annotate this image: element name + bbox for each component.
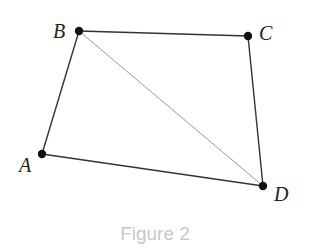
figure-caption: Figure 2	[120, 223, 190, 244]
label-b: B	[53, 20, 65, 42]
quadrilateral-diagram: B C A D Figure 2	[0, 0, 311, 250]
label-d: D	[273, 183, 289, 205]
edge-ab	[42, 31, 79, 154]
label-a: A	[17, 154, 32, 176]
point-d	[259, 182, 267, 190]
point-c	[244, 32, 252, 40]
edge-bc	[79, 31, 248, 36]
edge-cd	[248, 36, 263, 186]
point-b	[75, 27, 83, 35]
edge-da	[42, 154, 263, 186]
label-c: C	[259, 22, 273, 44]
point-a	[38, 150, 46, 158]
